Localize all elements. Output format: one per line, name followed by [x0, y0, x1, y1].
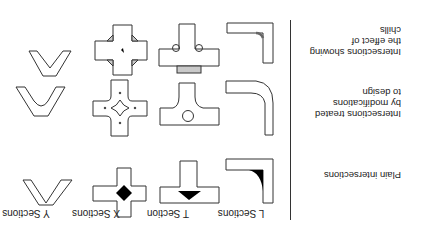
t-section-plain — [160, 161, 219, 203]
diagram-shapes — [0, 0, 441, 243]
t-section-chills — [159, 24, 219, 73]
x-section-modified — [93, 80, 147, 136]
t-section-modified — [160, 83, 219, 125]
l-section-modified — [226, 81, 273, 135]
x-section-plain — [93, 168, 146, 217]
l-section-chills — [227, 23, 273, 63]
y-section-plain — [23, 180, 72, 205]
casting-intersections-figure: L Sections T Section X Sections Y Sectio… — [0, 0, 441, 243]
x-section-chills — [95, 25, 147, 75]
y-section-modified — [16, 87, 65, 116]
l-section-plain — [226, 159, 273, 203]
y-section-chills — [29, 51, 71, 76]
